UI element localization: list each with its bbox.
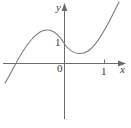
x-axis-tick-label-1: 1 [101,66,107,77]
y-axis-tick-label-1: 1 [55,37,61,48]
function-graph-figure: y x 0 1 1 [0,0,131,128]
x-axis-label: x [120,64,125,75]
origin-label: 0 [57,63,63,74]
graph-canvas [0,0,131,128]
y-axis-arrow-icon [62,3,68,11]
y-axis-label: y [56,2,61,13]
